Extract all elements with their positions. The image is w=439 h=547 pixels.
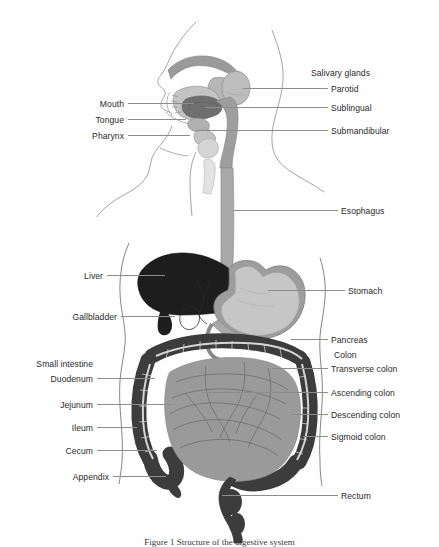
- trachea: [203, 159, 215, 194]
- label-liver: Liver: [84, 272, 103, 281]
- digestive-system-illustration: [0, 0, 439, 547]
- label-ileum: Ileum: [72, 424, 93, 433]
- leader-line-pancreas: [291, 339, 328, 340]
- leader-line-rectum: [222, 495, 338, 496]
- small-intestine-mass: [165, 358, 301, 482]
- label-ascending_colon: Ascending colon: [331, 389, 395, 398]
- leader-line-cecum: [97, 450, 157, 451]
- label-jejunum: Jejunum: [60, 401, 93, 410]
- label-mouth: Mouth: [100, 100, 124, 109]
- label-salivary_glands: Salivary glands: [311, 69, 370, 78]
- leader-line-jejunum: [97, 404, 171, 405]
- label-gallbladder: Gallbladder: [72, 313, 117, 322]
- liver-lobe-notch: [158, 311, 172, 335]
- label-rectum: Rectum: [341, 492, 371, 501]
- label-stomach: Stomach: [348, 287, 382, 296]
- leader-line-mouth: [128, 103, 194, 104]
- label-pancreas: Pancreas: [331, 336, 368, 345]
- label-submandibular: Submandibular: [331, 127, 389, 136]
- neck-outline: [190, 152, 196, 216]
- label-transverse_colon: Transverse colon: [331, 365, 397, 374]
- label-parotid: Parotid: [331, 85, 359, 94]
- label-colon: Colon: [334, 351, 357, 360]
- leader-line-liver: [107, 275, 165, 276]
- leader-line-submandibular: [196, 130, 328, 131]
- leader-line-ascending_colon: [202, 392, 328, 393]
- cecum: [150, 454, 177, 482]
- leader-line-appendix: [113, 476, 166, 477]
- label-pharynx: Pharynx: [92, 132, 124, 141]
- label-small_intestine: Small intestine: [36, 360, 93, 369]
- rectal-ampulla: [220, 489, 242, 515]
- label-descending_colon: Descending colon: [331, 411, 400, 420]
- leader-line-stomach: [268, 290, 345, 291]
- anal-canal: [229, 513, 245, 535]
- leader-line-parotid: [243, 88, 328, 89]
- label-tongue: Tongue: [96, 116, 125, 125]
- label-esophagus: Esophagus: [341, 207, 384, 216]
- leader-line-esophagus: [233, 210, 338, 211]
- leader-line-sublingual: [205, 107, 328, 108]
- leader-line-duodenum: [97, 378, 155, 379]
- leader-line-gallbladder: [121, 316, 175, 317]
- leader-line-pharynx: [128, 135, 190, 136]
- leader-line-tongue: [128, 119, 186, 120]
- digestive-system-figure: Salivary glandsParotidSublingualSubmandi…: [0, 0, 439, 547]
- label-duodenum: Duodenum: [51, 375, 93, 384]
- figure-caption: Figure 1 Structure of the digestive syst…: [0, 537, 439, 547]
- leader-line-ileum: [97, 427, 137, 428]
- label-appendix: Appendix: [73, 473, 109, 482]
- leader-line-transverse_colon: [272, 368, 328, 369]
- label-sublingual: Sublingual: [331, 104, 372, 113]
- label-sigmoid_colon: Sigmoid colon: [331, 433, 386, 442]
- larynx: [198, 139, 219, 158]
- leader-line-sigmoid_colon: [303, 436, 328, 437]
- label-cecum: Cecum: [66, 447, 93, 456]
- leader-line-descending_colon: [291, 414, 328, 415]
